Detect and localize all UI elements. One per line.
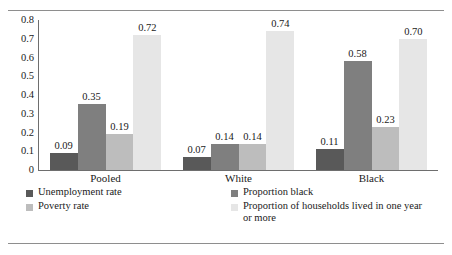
bar[interactable] — [239, 144, 267, 170]
bar-value-label: 0.19 — [110, 121, 128, 132]
legend-label: Unemployment rate — [38, 186, 122, 198]
bar-slot: 0.72 — [133, 20, 161, 170]
legend-item[interactable]: Poverty rate — [26, 200, 231, 224]
bar-group-bars: 0.110.580.230.70 — [316, 20, 428, 170]
bar-group-white: 0.070.140.140.74White — [172, 20, 305, 170]
y-axis-tick: 0.1 — [21, 146, 34, 157]
bar-value-label: 0.14 — [215, 131, 233, 142]
bar[interactable] — [316, 149, 344, 170]
bar-value-label: 0.70 — [404, 26, 422, 37]
bar-value-label: 0.72 — [138, 22, 156, 33]
y-axis-tick: 0.7 — [21, 34, 34, 45]
bar[interactable] — [50, 153, 78, 170]
bar[interactable] — [211, 144, 239, 170]
bar-value-label: 0.14 — [243, 131, 261, 142]
legend-label: Proportion of households lived in one ye… — [243, 200, 430, 224]
bar-slot: 0.58 — [344, 20, 372, 170]
x-axis-category-label: White — [172, 172, 305, 184]
bar-value-label: 0.58 — [348, 48, 366, 59]
top-divider-rule — [8, 10, 444, 11]
bar-value-label: 0.11 — [321, 136, 339, 147]
bar-slot: 0.11 — [316, 20, 344, 170]
chart-legend: Unemployment rateProportion blackPoverty… — [26, 186, 436, 226]
bar-slot: 0.74 — [266, 20, 294, 170]
y-axis-tick: 0.2 — [21, 127, 34, 138]
bar-chart-plot-area: 0.80.70.60.50.40.30.20.10 0.090.350.190.… — [38, 20, 438, 170]
legend-item[interactable]: Proportion of households lived in one ye… — [231, 200, 436, 224]
bar-value-label: 0.09 — [54, 140, 72, 151]
bar[interactable] — [133, 35, 161, 170]
x-axis-category-label: Pooled — [39, 172, 172, 184]
bar-value-label: 0.07 — [187, 144, 205, 155]
bar[interactable] — [399, 39, 427, 170]
legend-label: Poverty rate — [38, 200, 89, 212]
bar-slot: 0.70 — [399, 20, 427, 170]
bar-group-black: 0.110.580.230.70Black — [305, 20, 438, 170]
bar[interactable] — [266, 31, 294, 170]
x-axis-line — [38, 170, 438, 171]
bar-groups: 0.090.350.190.72Pooled0.070.140.140.74Wh… — [39, 20, 438, 170]
bar[interactable] — [78, 104, 106, 170]
legend-swatch-icon — [26, 204, 33, 211]
bar-value-label: 0.35 — [82, 91, 100, 102]
y-axis-tick: 0.3 — [21, 109, 34, 120]
y-axis-tick: 0.4 — [21, 90, 34, 101]
legend-swatch-icon — [26, 190, 33, 197]
x-axis-category-label: Black — [305, 172, 438, 184]
bar-slot: 0.14 — [239, 20, 267, 170]
bar-slot: 0.09 — [50, 20, 78, 170]
bar-group-bars: 0.070.140.140.74 — [183, 20, 295, 170]
bar[interactable] — [106, 134, 134, 170]
bar-group-bars: 0.090.350.190.72 — [50, 20, 162, 170]
bar-slot: 0.35 — [78, 20, 106, 170]
bar-value-label: 0.74 — [271, 18, 289, 29]
bar-slot: 0.07 — [183, 20, 211, 170]
y-axis-tick: 0.5 — [21, 71, 34, 82]
bar[interactable] — [372, 127, 400, 170]
bar-value-label: 0.23 — [376, 114, 394, 125]
legend-swatch-icon — [231, 204, 238, 211]
y-axis-tick: 0.8 — [21, 15, 34, 26]
bar-group-pooled: 0.090.350.190.72Pooled — [39, 20, 172, 170]
legend-label: Proportion black — [243, 186, 313, 198]
legend-item[interactable]: Proportion black — [231, 186, 436, 198]
bar-slot: 0.23 — [372, 20, 400, 170]
legend-item[interactable]: Unemployment rate — [26, 186, 231, 198]
bar-slot: 0.19 — [106, 20, 134, 170]
bar[interactable] — [344, 61, 372, 170]
y-axis-tick: 0.6 — [21, 52, 34, 63]
bar[interactable] — [183, 157, 211, 170]
bar-slot: 0.14 — [211, 20, 239, 170]
y-axis-tick-labels: 0.80.70.60.50.40.30.20.10 — [4, 20, 34, 170]
legend-swatch-icon — [231, 190, 238, 197]
bottom-divider-rule — [8, 243, 444, 244]
y-axis-tick: 0 — [29, 165, 34, 176]
